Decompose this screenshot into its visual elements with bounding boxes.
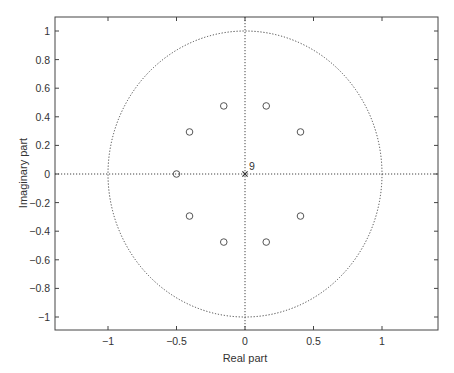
y-tick-label: 0 bbox=[44, 168, 50, 180]
y-axis-label: Imaginary part bbox=[17, 138, 29, 208]
y-tick-label: −0.4 bbox=[29, 225, 50, 237]
y-tick-label: 0.2 bbox=[35, 139, 50, 151]
x-tick-label: 0.5 bbox=[306, 335, 321, 347]
x-tick-label: 0 bbox=[242, 335, 248, 347]
y-tick-label: 1 bbox=[44, 25, 50, 37]
y-tick-label: 0.6 bbox=[35, 82, 50, 94]
pole-zero-plot: 9 −1−0.500.5110.80.60.40.20−0.2−0.4−0.6−… bbox=[0, 0, 454, 373]
x-tick-label: 1 bbox=[379, 335, 385, 347]
x-axis-label: Real part bbox=[223, 352, 268, 364]
y-tick-label: −0.2 bbox=[29, 197, 50, 209]
x-tick-label: −1 bbox=[102, 335, 114, 347]
y-tick-label: −1 bbox=[38, 311, 50, 323]
pole-multiplicity-label: 9 bbox=[249, 160, 255, 172]
y-tick-label: 0.8 bbox=[35, 54, 50, 66]
y-tick-label: −0.8 bbox=[29, 282, 50, 294]
x-tick-label: −0.5 bbox=[166, 335, 187, 347]
y-tick-label: 0.4 bbox=[35, 111, 50, 123]
y-tick-label: −0.6 bbox=[29, 254, 50, 266]
